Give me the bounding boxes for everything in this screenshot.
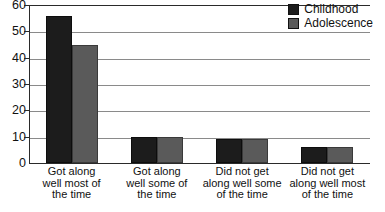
y-tick-label: 40 — [1, 52, 26, 64]
category-label-line: Did not get — [201, 166, 284, 178]
y-tick-mark — [24, 137, 29, 138]
category-label: Did not getalong well mostof the time — [285, 166, 370, 212]
category-label-line: the time — [30, 189, 113, 201]
legend-item-adolescence: Adolescence — [288, 17, 373, 29]
legend-label: Childhood — [304, 3, 358, 15]
legend-item-childhood: Childhood — [288, 3, 373, 15]
y-tick-label: 0 — [1, 157, 26, 169]
y-tick-label: 20 — [1, 104, 26, 116]
category-label: Got alongwell most ofthe time — [29, 166, 114, 212]
bar-adolescence-1 — [157, 137, 183, 163]
category-label-line: of the time — [286, 189, 369, 201]
x-axis-line — [29, 163, 370, 164]
chart-legend: ChildhoodAdolescence — [288, 3, 373, 29]
category-label-line: the time — [115, 189, 198, 201]
y-tick-label: 30 — [1, 78, 26, 90]
legend-swatch-icon — [288, 18, 299, 29]
y-tick-mark — [24, 58, 29, 59]
category-label: Did not getalong well someof the time — [200, 166, 285, 212]
category-label: Got alongwell some ofthe time — [114, 166, 199, 212]
legend-label: Adolescence — [304, 17, 373, 29]
bar-childhood-3 — [301, 147, 327, 163]
y-tick-mark — [24, 110, 29, 111]
bar-adolescence-3 — [327, 147, 353, 163]
y-tick-label: 10 — [1, 131, 26, 143]
bar-childhood-1 — [131, 137, 157, 163]
bar-chart: 0102030405060 Got alongwell most ofthe t… — [0, 0, 385, 212]
y-tick-mark — [24, 84, 29, 85]
y-tick-label: 50 — [1, 25, 26, 37]
category-label-line: of the time — [201, 189, 284, 201]
category-label-line: Got along — [115, 166, 198, 178]
x-axis-category-labels: Got alongwell most ofthe timeGot alongwe… — [29, 166, 370, 212]
y-tick-label: 60 — [1, 0, 26, 11]
bar-adolescence-0 — [72, 45, 98, 164]
bar-childhood-2 — [216, 139, 242, 163]
y-axis-tick-labels: 0102030405060 — [0, 0, 26, 170]
bar-adolescence-2 — [242, 139, 268, 163]
y-tick-mark — [24, 31, 29, 32]
legend-swatch-icon — [288, 4, 299, 15]
y-tick-mark — [24, 5, 29, 6]
category-label-line: Did not get — [286, 166, 369, 178]
bar-childhood-0 — [46, 16, 72, 163]
category-label-line: Got along — [30, 166, 113, 178]
